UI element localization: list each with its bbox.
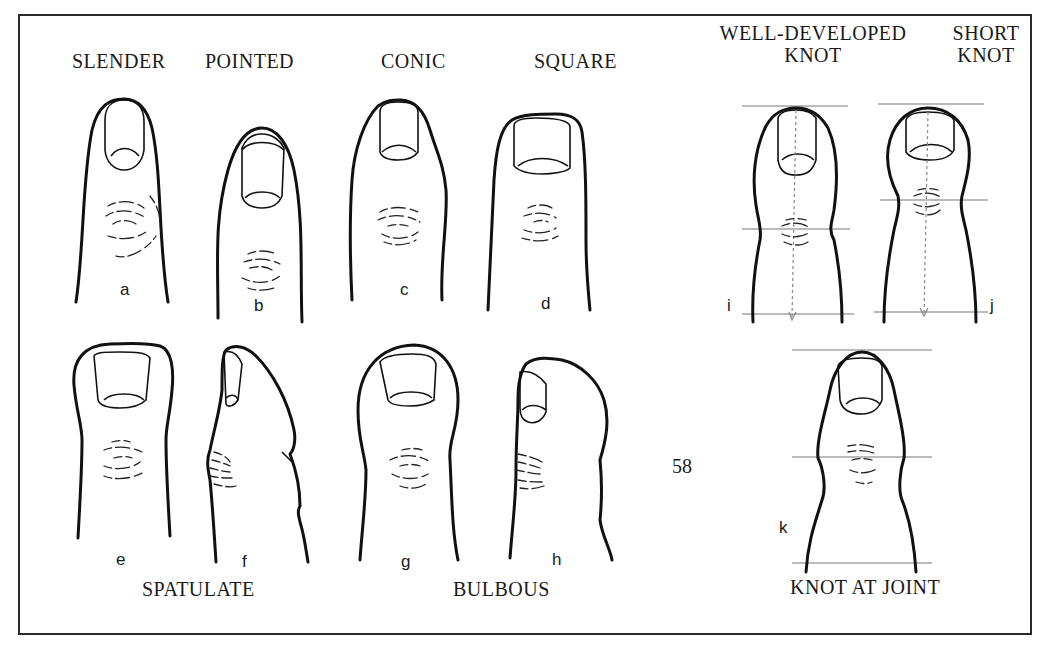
measure-arrow-j <box>924 112 928 316</box>
finger-c-conic-illustration <box>351 100 447 300</box>
finger-a-slender-illustration <box>76 99 168 302</box>
finger-j-short-knot-illustration <box>874 104 988 322</box>
finger-h-bulbous-side-illustration <box>510 358 612 560</box>
finger-k-knot-at-joint-illustration <box>792 350 932 572</box>
finger-e-spatulate-front-illustration <box>74 343 173 538</box>
finger-d-square-illustration <box>488 114 590 310</box>
fingertip-illustrations <box>0 0 1049 655</box>
measure-arrow-i <box>792 110 796 318</box>
finger-g-bulbous-front-illustration <box>358 345 458 560</box>
finger-f-spatulate-side-illustration <box>208 347 308 562</box>
finger-b-pointed-illustration <box>217 128 302 322</box>
finger-i-well-developed-knot-illustration <box>742 106 854 322</box>
